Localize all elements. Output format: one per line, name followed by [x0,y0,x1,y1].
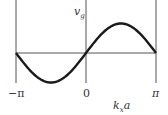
tick-label-neg-pi: −π [8,88,24,99]
x-axis-label: kxa [113,100,130,114]
tick-label-zero: 0 [83,88,90,99]
tick-label-pi: π [152,88,159,99]
y-axis-label: vg [74,6,85,20]
